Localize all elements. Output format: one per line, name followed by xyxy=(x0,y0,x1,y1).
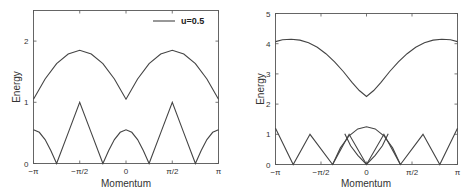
y-tick-label: 1 xyxy=(24,98,29,107)
x-tick-label: π/2 xyxy=(406,168,419,177)
left-curves xyxy=(34,50,219,163)
right-x-axis-label: Momentum xyxy=(341,178,391,189)
x-tick-label: −π xyxy=(270,168,281,177)
legend-label: u=0.5 xyxy=(181,16,204,26)
x-tick-label: −π/2 xyxy=(313,168,330,177)
left-plot-frame xyxy=(34,11,219,164)
y-tick-label: 2 xyxy=(24,37,29,46)
right-curves xyxy=(276,39,458,164)
legend: u=0.5 xyxy=(153,16,204,26)
y-tick-label: 1 xyxy=(266,130,271,139)
series-lower-band-outer- xyxy=(276,128,458,164)
x-tick-label: π xyxy=(455,168,461,177)
series-lower-band xyxy=(34,102,219,163)
series-upper-band xyxy=(276,39,458,96)
y-tick-label: 0 xyxy=(24,160,29,169)
y-tick-label: 3 xyxy=(266,70,271,79)
y-tick-label: 0 xyxy=(266,161,271,170)
left-plot: −π−π/20π/2π012 Momentum Energy u=0.5 xyxy=(11,11,222,190)
x-tick-label: 0 xyxy=(364,168,369,177)
right-plot: −π−π/20π/2π012345 Momentum Energy xyxy=(255,10,461,190)
left-y-axis-label: Energy xyxy=(11,71,22,103)
left-x-axis-label: Momentum xyxy=(101,178,151,189)
y-tick-label: 4 xyxy=(266,40,271,49)
band-structure-figure: −π−π/20π/2π012 Momentum Energy u=0.5 −π−… xyxy=(0,0,463,194)
right-y-axis-label: Energy xyxy=(255,73,266,105)
right-plot-frame xyxy=(276,14,458,165)
x-tick-label: π xyxy=(216,167,222,176)
x-tick-label: 0 xyxy=(124,167,129,176)
y-tick-label: 2 xyxy=(266,100,271,109)
x-tick-label: −π/2 xyxy=(71,167,88,176)
x-tick-label: π/2 xyxy=(166,167,179,176)
y-tick-label: 5 xyxy=(266,10,271,19)
right-ticks: −π−π/20π/2π012345 xyxy=(266,10,461,177)
x-tick-label: −π xyxy=(28,167,39,176)
series-upper-band xyxy=(34,50,219,99)
